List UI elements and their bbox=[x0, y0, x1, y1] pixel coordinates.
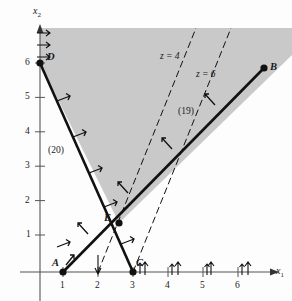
vertex-label-C: C bbox=[136, 258, 143, 269]
x-axis-feasibility-arrows bbox=[138, 262, 252, 275]
y-tick-2: 2 bbox=[25, 196, 30, 206]
x-axis bbox=[20, 267, 279, 277]
vertex-label-E: E bbox=[104, 213, 111, 224]
x-tick-2: 2 bbox=[95, 281, 100, 291]
x-tick-1: 1 bbox=[60, 281, 65, 291]
y-tick-1: 1 bbox=[26, 230, 31, 240]
y-tick-6: 6 bbox=[25, 58, 30, 68]
y-tick-4: 4 bbox=[25, 127, 30, 137]
x-tick-4: 4 bbox=[165, 281, 170, 291]
plot-canvas bbox=[0, 0, 292, 301]
lp-graph-figure: x2 x1 6 5 4 3 2 1 1 2 3 4 5 6 D B E A C … bbox=[0, 0, 292, 301]
x-tick-3: 3 bbox=[130, 281, 135, 291]
y-axis-label: x2 bbox=[33, 6, 41, 19]
constraint-label-20: (20) bbox=[48, 146, 64, 156]
isoline-label-z6: z = 6 bbox=[196, 70, 216, 80]
y-tick-5: 5 bbox=[25, 92, 30, 102]
vertex-dot-B bbox=[260, 64, 267, 71]
y-tick-3: 3 bbox=[25, 161, 30, 171]
vertex-label-A: A bbox=[52, 258, 59, 269]
vertex-dot-E bbox=[115, 219, 122, 226]
vertex-dot-C bbox=[129, 268, 136, 275]
vertex-label-B: B bbox=[270, 62, 277, 73]
x-tick-5: 5 bbox=[200, 281, 205, 291]
x-tick-6: 6 bbox=[235, 281, 240, 291]
vertex-dot-A bbox=[59, 268, 66, 275]
vertex-dot-D bbox=[36, 59, 43, 66]
constraint-20-extension bbox=[95, 255, 101, 274]
constraint-label-19: (19) bbox=[178, 107, 194, 117]
isoline-label-z4: z = 4 bbox=[160, 52, 180, 62]
vertex-label-D: D bbox=[47, 52, 55, 63]
x-axis-label: x1 bbox=[276, 266, 284, 279]
